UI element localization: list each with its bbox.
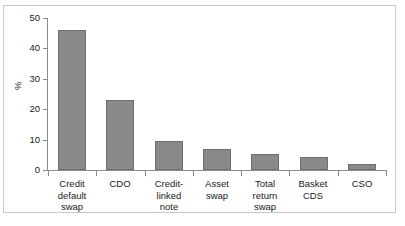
x-axis-category-label-line: Credit <box>48 178 96 190</box>
x-axis-tick <box>96 171 97 176</box>
x-axis-category-label: Totalreturnswap <box>241 178 289 213</box>
x-axis-category-label-line: CDO <box>96 178 144 190</box>
x-axis-category-label-line: Total <box>241 178 289 190</box>
bar[interactable] <box>251 154 279 170</box>
x-axis-category-label: Credit-linkednote <box>145 178 193 213</box>
x-axis-category-label-line: Basket <box>289 178 337 190</box>
x-axis-category-label-line: default <box>48 190 96 202</box>
x-axis-tick <box>48 171 49 176</box>
bar[interactable] <box>155 141 183 170</box>
x-axis-category-label-line: Credit- <box>145 178 193 190</box>
x-axis-category-label: Creditdefaultswap <box>48 178 96 213</box>
x-axis-tick <box>241 171 242 176</box>
x-axis-category-label-line: CSO <box>338 178 386 190</box>
x-axis-category-label: CDO <box>96 178 144 190</box>
x-axis-tick <box>145 171 146 176</box>
x-axis-tick <box>289 171 290 176</box>
x-axis-category-label-line: swap <box>48 201 96 213</box>
y-axis-tick-label: 0 <box>6 165 40 175</box>
bar[interactable] <box>300 157 328 170</box>
x-axis-category-label-line: linked <box>145 190 193 202</box>
x-axis-tick <box>386 171 387 176</box>
bar[interactable] <box>58 30 86 170</box>
x-axis-category-label-line: Asset <box>193 178 241 190</box>
bar[interactable] <box>106 100 134 170</box>
plot-area <box>48 18 386 170</box>
chart-figure: % 01020304050 CreditdefaultswapCDOCredit… <box>3 5 396 213</box>
x-axis-category-label-line: return <box>241 190 289 202</box>
bar[interactable] <box>203 149 231 170</box>
bar[interactable] <box>348 164 376 170</box>
y-axis-tick-label: 10 <box>6 135 40 145</box>
x-axis-category-label-line: swap <box>193 190 241 202</box>
x-axis-category-label: CSO <box>338 178 386 190</box>
x-axis-tick <box>193 171 194 176</box>
x-axis-category-label-line: note <box>145 201 193 213</box>
x-axis-category-label-line: CDS <box>289 190 337 202</box>
x-axis-tick <box>338 171 339 176</box>
y-axis-tick-label: 40 <box>6 43 40 53</box>
y-axis-tick-label: 30 <box>6 74 40 84</box>
y-axis-tick-label: 20 <box>6 104 40 114</box>
x-axis-category-label: Assetswap <box>193 178 241 201</box>
x-axis-category-label: BasketCDS <box>289 178 337 201</box>
x-axis-category-label-line: swap <box>241 201 289 213</box>
y-axis-tick-label: 50 <box>6 13 40 23</box>
